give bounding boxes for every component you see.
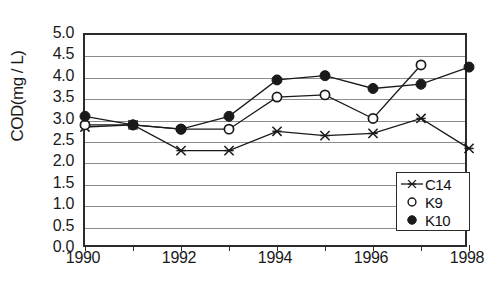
legend-symbol-open-circle xyxy=(399,193,425,211)
legend: C14K9K10 xyxy=(396,172,470,231)
cross-star-marker xyxy=(272,127,281,136)
chart-figure: COD(mg / L) 0.00.51.01.52.02.53.03.54.04… xyxy=(0,0,486,292)
cross-star-marker xyxy=(464,144,473,153)
series-c14 xyxy=(80,114,473,155)
y-axis-tick-label: 2.5 xyxy=(26,132,74,148)
y-axis-tick-label: 4.0 xyxy=(26,68,74,84)
x-axis-tick-label: 1996 xyxy=(341,250,401,266)
y-axis-tick-label: 3.5 xyxy=(26,89,74,105)
open-circle-marker xyxy=(408,198,416,206)
cross-star-marker xyxy=(320,131,329,140)
x-axis-tick-label: 1994 xyxy=(245,250,305,266)
filled-circle-marker xyxy=(272,75,282,85)
open-circle-marker xyxy=(272,92,281,101)
open-circle-marker xyxy=(368,114,377,123)
filled-circle-marker xyxy=(408,216,417,225)
legend-item-c14: C14 xyxy=(399,175,469,193)
filled-circle-marker xyxy=(416,79,426,89)
cross-star-marker xyxy=(416,114,425,123)
x-axis-tick-label: 1998 xyxy=(437,250,486,266)
cross-star-marker xyxy=(408,180,416,188)
legend-item-k10: K10 xyxy=(399,211,469,229)
legend-label: K9 xyxy=(425,195,442,210)
cross-star-marker xyxy=(368,129,377,138)
filled-circle-marker xyxy=(320,71,330,81)
filled-circle-marker xyxy=(80,111,90,121)
y-axis-tick-label: 1.0 xyxy=(26,196,74,212)
filled-circle-marker xyxy=(368,84,378,94)
legend-label: K10 xyxy=(425,213,450,228)
legend-symbol-cross-star xyxy=(399,175,425,193)
filled-circle-marker xyxy=(224,111,234,121)
y-axis-tick-label: 1.5 xyxy=(26,175,74,191)
cross-star-marker xyxy=(224,146,233,155)
y-axis-tick-label: 2.0 xyxy=(26,153,74,169)
y-axis-tick-label: 5.0 xyxy=(26,25,74,41)
open-circle-marker xyxy=(224,125,233,134)
y-axis-tick-label: 4.5 xyxy=(26,46,74,62)
x-axis-tick-label: 1992 xyxy=(149,250,209,266)
y-axis-title: COD(mg / L) xyxy=(8,0,28,206)
legend-item-k9: K9 xyxy=(399,193,469,211)
cross-star-marker xyxy=(176,146,185,155)
filled-circle-marker xyxy=(464,62,474,72)
series-line xyxy=(85,119,469,151)
x-axis-tick xyxy=(469,245,470,251)
open-circle-marker xyxy=(320,90,329,99)
filled-circle-marker xyxy=(128,120,138,130)
y-axis-tick-label: 3.0 xyxy=(26,111,74,127)
legend-symbol-filled-circle xyxy=(399,211,425,229)
open-circle-marker xyxy=(416,60,425,69)
x-axis-tick-label: 1990 xyxy=(53,250,113,266)
filled-circle-marker xyxy=(176,124,186,134)
legend-label: C14 xyxy=(425,177,451,192)
y-axis-tick-label: 0.5 xyxy=(26,218,74,234)
